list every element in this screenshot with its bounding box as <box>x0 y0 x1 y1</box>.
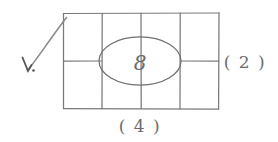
right-dimension-label: ( 2 ) <box>224 52 266 72</box>
pointer-arrow-dot <box>32 69 35 72</box>
hand-drawn-figure: 8 ( 4 ) ( 2 ) <box>0 0 278 142</box>
bottom-dimension-label: ( 4 ) <box>119 116 161 136</box>
ellipse-value: 8 <box>134 51 147 75</box>
